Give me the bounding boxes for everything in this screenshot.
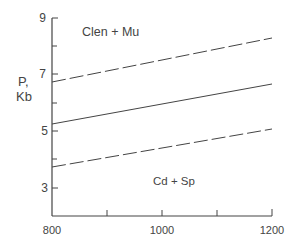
x-ticks: [107, 209, 272, 216]
x-tick-label-1200: 1200: [260, 224, 284, 236]
region-label-cd-sp: Cd + Sp: [153, 175, 195, 187]
equilibrium-solid-line: [52, 84, 272, 124]
y-axis-label-line1: P,: [18, 74, 29, 89]
phase-diagram-chart: 9 7 5 3 P, Kb 800 1000 1200 Clen + Mu Cd…: [0, 0, 301, 248]
x-tick-label-800: 800: [43, 224, 61, 236]
lower-dashed-line: [52, 129, 272, 167]
y-tick-label-9: 9: [39, 11, 46, 25]
y-ticks: [52, 18, 58, 188]
y-tick-label-3: 3: [41, 181, 48, 195]
x-tick-label-1000: 1000: [150, 224, 174, 236]
y-tick-label-7: 7: [39, 67, 46, 81]
region-label-clen-mu: Clen + Mu: [82, 25, 139, 39]
upper-dashed-line: [52, 38, 272, 82]
y-tick-label-5: 5: [41, 124, 48, 138]
y-axis-label-line2: Kb: [16, 89, 32, 104]
